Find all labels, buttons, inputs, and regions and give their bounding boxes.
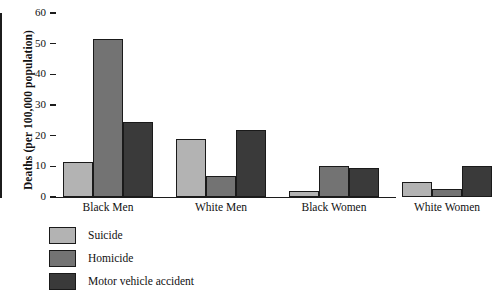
legend-swatch xyxy=(49,273,76,290)
x-axis-label-white-women: White Women xyxy=(387,201,496,214)
y-tick-label-0: 0 xyxy=(6,191,46,202)
y-tick-30 xyxy=(50,104,56,106)
bar xyxy=(176,139,206,197)
y-tick-0 xyxy=(50,196,56,198)
bar xyxy=(349,168,379,197)
bar xyxy=(63,162,93,197)
legend-label: Homicide xyxy=(88,251,133,266)
y-tick-20 xyxy=(50,135,56,137)
legend-swatch xyxy=(49,227,76,244)
bar xyxy=(93,39,123,197)
y-tick-label-60: 60 xyxy=(6,7,46,18)
bar xyxy=(206,176,236,197)
x-axis-label-black-women: Black Women xyxy=(274,201,394,214)
y-tick-label-10: 10 xyxy=(6,160,46,171)
y-axis-line xyxy=(0,13,2,198)
bar xyxy=(236,130,266,197)
y-tick-40 xyxy=(50,74,56,76)
y-tick-50 xyxy=(50,43,56,45)
y-tick-label-50: 50 xyxy=(6,38,46,49)
y-tick-label-40: 40 xyxy=(6,68,46,79)
legend-swatch xyxy=(49,250,76,267)
y-tick-10 xyxy=(50,166,56,168)
bar xyxy=(462,166,492,197)
y-tick-label-20: 20 xyxy=(6,130,46,141)
legend-label: Suicide xyxy=(88,228,123,243)
legend-label: Motor vehicle accident xyxy=(88,274,194,289)
bar xyxy=(289,191,319,197)
y-tick-60 xyxy=(50,12,56,14)
x-axis-label-white-men: White Men xyxy=(161,201,281,214)
bar xyxy=(123,122,153,197)
bar xyxy=(432,189,462,197)
x-axis-label-black-men: Black Men xyxy=(48,201,168,214)
y-tick-label-30: 30 xyxy=(6,99,46,110)
bar xyxy=(319,166,349,197)
bar xyxy=(402,182,432,197)
